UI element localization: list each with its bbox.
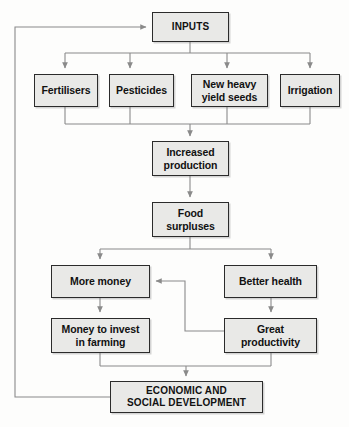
node-increased-production[interactable]: Increased production: [152, 141, 229, 176]
node-more-money-label: More money: [70, 275, 131, 287]
node-invest-label: Money to invest in farming: [62, 323, 140, 348]
node-inputs-label: INPUTS: [172, 21, 210, 33]
node-economic-and-social-development[interactable]: ECONOMIC AND SOCIAL DEVELOPMENT: [110, 381, 263, 413]
node-pesticides[interactable]: Pesticides: [109, 74, 174, 107]
node-new-heavy-yield-seeds[interactable]: New heavy yield seeds: [191, 74, 268, 107]
node-better-health[interactable]: Better health: [224, 265, 317, 298]
node-pesticides-label: Pesticides: [116, 84, 167, 96]
node-irrigation[interactable]: Irrigation: [280, 74, 340, 107]
node-production-label: Increased production: [164, 146, 218, 171]
node-fertilisers-label: Fertilisers: [41, 84, 90, 96]
node-productivity-label: Great productivity: [241, 323, 300, 348]
node-food-surpluses[interactable]: Food surpluses: [152, 202, 229, 237]
node-irrigation-label: Irrigation: [288, 84, 333, 96]
flowchart-canvas: INPUTS Fertilisers Pesticides New heavy …: [0, 0, 349, 427]
node-fertilisers[interactable]: Fertilisers: [34, 74, 98, 107]
node-surpluses-label: Food surpluses: [166, 207, 215, 232]
node-money-to-invest-in-farming[interactable]: Money to invest in farming: [51, 318, 150, 353]
node-seeds-label: New heavy yield seeds: [202, 78, 258, 103]
node-development-label: ECONOMIC AND SOCIAL DEVELOPMENT: [127, 385, 246, 409]
node-great-productivity[interactable]: Great productivity: [224, 318, 317, 353]
node-inputs[interactable]: INPUTS: [152, 12, 229, 42]
node-better-health-label: Better health: [239, 275, 302, 287]
edge-productivity-to-more-money: [156, 281, 224, 331]
node-more-money[interactable]: More money: [51, 265, 150, 298]
